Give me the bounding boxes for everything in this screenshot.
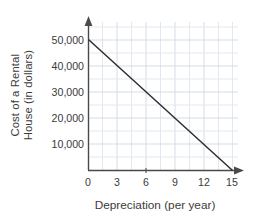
x-tick-label: 9 [163, 176, 187, 188]
x-tick-label: 3 [105, 176, 129, 188]
x-axis-title: Depreciation (per year) [60, 198, 250, 212]
x-axis-arrowhead [234, 167, 244, 175]
grid-vertical-minor [103, 22, 233, 170]
x-tick-label: 0 [76, 176, 100, 188]
x-tick-label: 15 [220, 176, 244, 188]
y-axis-arrowhead [85, 16, 93, 26]
chart-figure: Cost of a Rental House (in dollars) 50,0… [0, 0, 254, 219]
grid-horizontal-major [88, 40, 238, 144]
x-tick-label: 12 [192, 176, 216, 188]
x-tick-label: 6 [134, 176, 158, 188]
